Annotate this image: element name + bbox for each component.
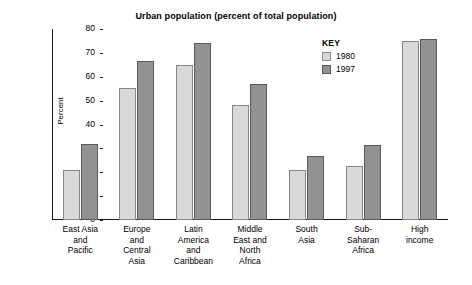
legend-title: KEY	[322, 38, 392, 48]
bar-group	[52, 29, 109, 220]
chart-legend: KEY 19801997	[322, 38, 392, 76]
x-axis-label: East Asia and Pacific	[52, 224, 109, 256]
legend-swatch-1997	[322, 65, 331, 74]
bar-1997	[81, 144, 98, 220]
bar-chart: Urban population (percent of total popul…	[0, 0, 472, 285]
bar-group	[165, 29, 222, 220]
x-axis-label: Middle East and North Africa	[222, 224, 279, 266]
bar-1997	[364, 145, 381, 220]
legend-entries: 19801997	[322, 50, 392, 76]
bar-1980	[289, 170, 306, 220]
bar-1980	[63, 170, 80, 220]
bar-group	[109, 29, 166, 220]
legend-entry-1997: 1997	[322, 63, 392, 76]
x-axis-label: Sub- Saharan Africa	[335, 224, 392, 256]
bar-1980	[176, 65, 193, 220]
chart-title: Urban population (percent of total popul…	[0, 11, 472, 21]
bar-1980	[402, 41, 419, 220]
x-axis-label: Europe and Central Asia	[109, 224, 166, 266]
y-axis-tick: 0	[53, 220, 103, 221]
x-axis-labels: East Asia and PacificEurope and Central …	[52, 224, 448, 282]
bar-1980	[346, 166, 363, 220]
bar-group	[391, 29, 448, 220]
x-axis-label: South Asia	[278, 224, 335, 245]
bar-1997	[194, 43, 211, 220]
bar-group	[222, 29, 279, 220]
bar-1997	[307, 156, 324, 220]
bar-1997	[137, 61, 154, 220]
y-axis-tick-mark	[100, 220, 103, 221]
bar-1980	[119, 88, 136, 221]
bar-1997	[250, 84, 267, 220]
bar-1980	[232, 105, 249, 220]
x-axis-label: Latin America and Caribbean	[165, 224, 222, 266]
bar-1997	[420, 39, 437, 220]
legend-label-1997: 1997	[336, 64, 355, 75]
legend-entry-1980: 1980	[322, 50, 392, 63]
legend-label-1980: 1980	[336, 51, 355, 62]
x-axis-label: High income	[391, 224, 448, 245]
legend-swatch-1980	[322, 52, 331, 61]
